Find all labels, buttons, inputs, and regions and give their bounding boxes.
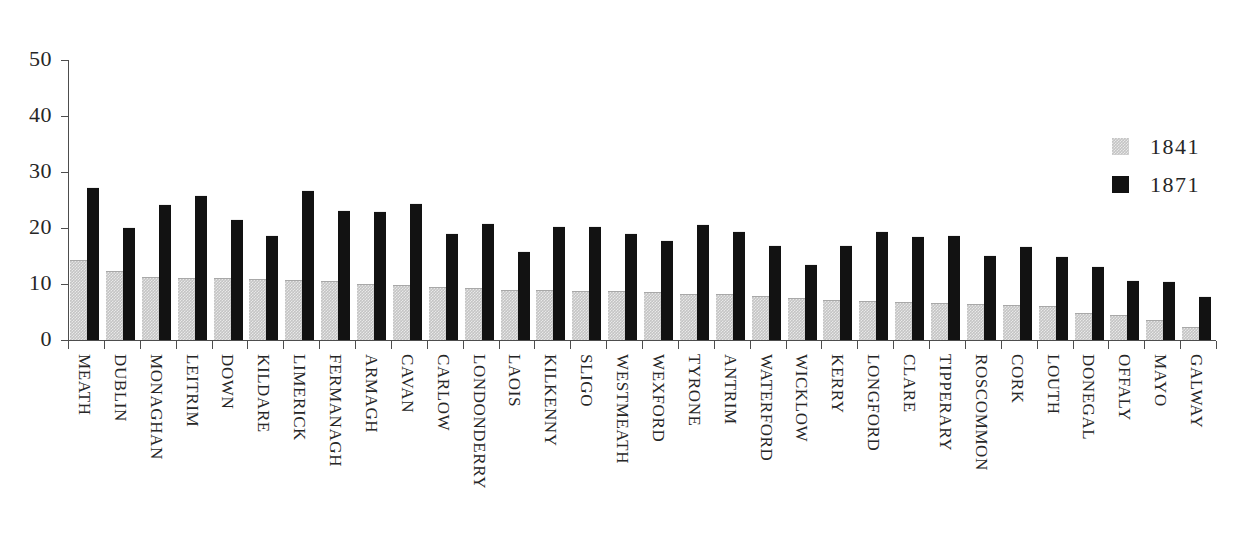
- legend-swatch-icon-1841: [1112, 138, 1129, 155]
- x-axis-tick: [821, 341, 822, 349]
- x-axis-tick-label: WESTMEATH: [614, 354, 631, 464]
- bar-chart: 50403020100 MEATHDUBLINMONAGHANLEITRIMDO…: [0, 0, 1236, 545]
- x-axis-tick-label: CAVAN: [399, 354, 416, 413]
- bar-1871: [1056, 256, 1068, 340]
- bar-1871: [625, 233, 637, 340]
- x-axis-tick-label: WEXFORD: [650, 354, 667, 442]
- plot-area: [68, 60, 1216, 340]
- legend-label-1871: 1871: [1150, 170, 1200, 200]
- bar-group: [142, 60, 178, 340]
- bar-1841: [680, 294, 697, 340]
- bar-1841: [895, 302, 912, 340]
- bar-1871: [231, 219, 243, 340]
- bar-1841: [1003, 305, 1020, 340]
- bar-1871: [661, 240, 673, 340]
- bar-1871: [446, 233, 458, 340]
- bar-1871: [338, 210, 350, 340]
- x-axis-tick-label: KERRY: [829, 354, 846, 414]
- x-axis-tick: [786, 341, 787, 349]
- x-axis-tick: [678, 341, 679, 349]
- legend-swatch-icon-1871: [1112, 176, 1129, 193]
- x-axis-tick-label: LONDONDERRY: [471, 354, 488, 489]
- x-axis-tick: [68, 341, 69, 349]
- bar-1871: [374, 211, 386, 340]
- x-axis-tick: [283, 341, 284, 349]
- x-axis-tick: [857, 341, 858, 349]
- bar-1871: [1163, 281, 1175, 340]
- x-axis-tick-label: MONAGHAN: [148, 354, 165, 460]
- x-axis-tick-label: WICKLOW: [793, 354, 810, 442]
- bar-1841: [178, 278, 195, 340]
- bar-group: [1003, 60, 1039, 340]
- x-axis-tick-label: KILDARE: [255, 354, 272, 433]
- bar-group: [465, 60, 501, 340]
- x-axis-tick: [534, 341, 535, 349]
- bar-group: [608, 60, 644, 340]
- bar-1871: [984, 255, 996, 340]
- legend-entry-1841: 1841: [1112, 132, 1232, 170]
- bar-1841: [1146, 320, 1163, 340]
- bar-group: [1075, 60, 1111, 340]
- x-axis-tick: [140, 341, 141, 349]
- x-axis-tick-label: LIMERICK: [291, 354, 308, 441]
- x-axis-tick: [570, 341, 571, 349]
- x-axis-tick-label: TYRONE: [686, 354, 703, 427]
- bar-1841: [106, 271, 123, 340]
- x-axis-tick: [642, 341, 643, 349]
- bar-1871: [518, 251, 530, 340]
- bar-1871: [1092, 266, 1104, 340]
- x-axis-tick: [176, 341, 177, 349]
- bar-group: [680, 60, 716, 340]
- x-axis-tick: [714, 341, 715, 349]
- bar-group: [357, 60, 393, 340]
- bar-1871: [840, 245, 852, 340]
- x-axis-tick-label: LOUTH: [1045, 354, 1062, 415]
- bar-1841: [823, 300, 840, 340]
- bar-group: [285, 60, 321, 340]
- x-axis-tick-label: GALWAY: [1188, 354, 1205, 428]
- bar-1871: [876, 231, 888, 340]
- bar-1871: [733, 231, 745, 340]
- bar-1871: [805, 264, 817, 340]
- bar-1871: [589, 226, 601, 340]
- x-axis-tick: [1216, 341, 1217, 349]
- bar-1841: [572, 291, 589, 340]
- bar-1871: [1127, 280, 1139, 340]
- x-axis-tick: [1108, 341, 1109, 349]
- bar-group: [106, 60, 142, 340]
- x-axis-tick: [965, 341, 966, 349]
- bar-1871: [123, 227, 135, 340]
- bar-group: [249, 60, 285, 340]
- bar-group: [429, 60, 465, 340]
- x-axis-tick-label: CARLOW: [435, 354, 452, 431]
- x-axis-tick-label: MAYO: [1152, 354, 1169, 407]
- bar-1841: [644, 292, 661, 340]
- x-axis-tick-label: LEITRIM: [184, 354, 201, 427]
- bar-1841: [501, 290, 518, 340]
- x-axis-tick-label: DONEGAL: [1080, 354, 1097, 440]
- bar-1871: [912, 236, 924, 340]
- bar-group: [393, 60, 429, 340]
- bar-group: [716, 60, 752, 340]
- bar-1841: [429, 287, 446, 340]
- x-axis-tick: [463, 341, 464, 349]
- bar-1841: [788, 298, 805, 340]
- y-axis-tick-label: 20: [6, 216, 52, 238]
- bar-group: [931, 60, 967, 340]
- bar-1841: [214, 278, 231, 340]
- bar-1871: [1199, 296, 1211, 340]
- y-axis-tick-label: 10: [6, 272, 52, 294]
- x-axis-tick: [893, 341, 894, 349]
- x-axis-tick: [606, 341, 607, 349]
- x-axis-tick: [355, 341, 356, 349]
- chart-legend: 1841 1871: [1112, 132, 1232, 208]
- bar-1871: [482, 223, 494, 340]
- bar-1871: [697, 224, 709, 340]
- bar-1871: [553, 226, 565, 340]
- x-axis-tick: [750, 341, 751, 349]
- bar-1871: [266, 235, 278, 340]
- legend-label-1841: 1841: [1150, 132, 1200, 162]
- bar-1841: [285, 280, 302, 340]
- bar-1841: [465, 288, 482, 340]
- x-axis-tick-label: FERMANAGH: [327, 354, 344, 467]
